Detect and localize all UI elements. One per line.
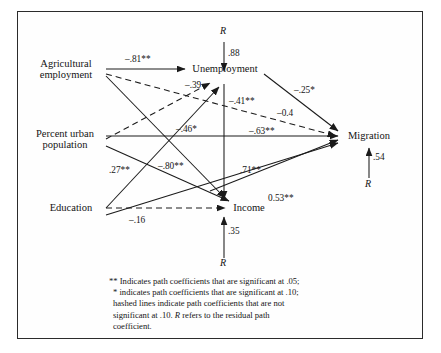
node-agricultural-employment-line2: employment <box>24 69 108 80</box>
coef-agri-unemployment: –.81** <box>125 54 151 64</box>
path-diagram-figure: Agricultural employment Percent urban po… <box>17 11 423 339</box>
coef-agri-income: –.80** <box>158 161 184 171</box>
residual-label-unemployment: R <box>220 25 226 36</box>
node-unemployment: Unemployment <box>187 63 263 75</box>
node-percent-urban-line2: population <box>22 139 108 150</box>
note-line-4: significant at .10. R refers to the resi… <box>109 310 359 321</box>
node-education: Education <box>34 202 108 214</box>
coef-urban-unemployment: –.39 <box>185 80 201 90</box>
coef-urban-income: .27** <box>109 165 130 175</box>
coef-education-income: –.16 <box>129 215 145 225</box>
coef-education-migration: 0.53** <box>268 193 294 203</box>
coef-unemployment-migration: –.25* <box>294 85 315 95</box>
residual-value-unemployment: .88 <box>228 48 240 58</box>
path-education-migration <box>106 143 338 215</box>
node-percent-urban-line1: Percent urban <box>22 128 108 139</box>
note-line-2: * indicates path coefficients that are s… <box>109 287 359 298</box>
residual-label-income: R <box>220 257 226 268</box>
node-migration: Migration <box>340 130 398 142</box>
coef-agri-migration: –0.4 <box>277 108 293 118</box>
node-agricultural-employment-line1: Agricultural <box>24 58 108 69</box>
figure-note: ** Indicates path coefficients that are … <box>109 276 359 332</box>
path-unemployment-migration <box>264 74 338 131</box>
node-percent-urban-population: Percent urban population <box>22 128 108 150</box>
note-line-3: hashed lines indicate path coefficients … <box>109 298 359 309</box>
path-agri-migration <box>106 74 336 136</box>
note-line-4-part-a: significant at .10. <box>113 310 175 320</box>
path-income-migration <box>210 140 338 191</box>
note-line-1: ** Indicates path coefficients that are … <box>109 276 359 287</box>
residual-value-income: .35 <box>228 226 240 236</box>
path-agri-income <box>106 76 225 198</box>
node-income: Income <box>227 202 271 214</box>
path-education-unemployment <box>106 87 219 208</box>
node-agricultural-employment: Agricultural employment <box>24 58 108 80</box>
note-line-5: coefficient. <box>109 321 359 332</box>
coef-unemployment-income: –.41** <box>229 96 255 106</box>
note-line-4-part-b: refers to the residual path <box>180 310 269 320</box>
coef-urban-migration: –.63** <box>249 126 275 136</box>
residual-value-migration: .54 <box>373 152 385 162</box>
coef-education-unemployment: –.46* <box>176 124 197 134</box>
residual-label-migration: R <box>365 178 371 189</box>
coef-income-migration: .71** <box>240 165 261 175</box>
